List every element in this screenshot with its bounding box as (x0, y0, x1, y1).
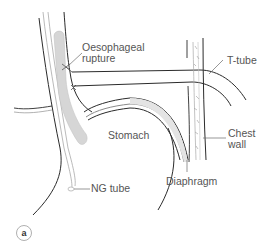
left-drain-tube (14, 106, 52, 113)
label-stomach: Stomach (108, 130, 149, 141)
chest-wall (187, 38, 206, 162)
ng-tube-tip (68, 187, 74, 191)
label-t-tube: T-tube (227, 55, 257, 66)
t-tube (72, 70, 246, 106)
label-ng-tube: NG tube (91, 183, 130, 194)
label-wall: wall (228, 139, 255, 150)
label-oesophageal-rupture: Oesophageal rupture (82, 42, 144, 64)
oesophageal-rupture-diagram (0, 0, 275, 246)
panel-label-badge: a (16, 225, 32, 241)
leader-lines (68, 53, 226, 189)
label-chest-wall: Chest wall (228, 128, 255, 150)
label-diaphragm: Diaphragm (166, 176, 217, 187)
label-rupture: rupture (82, 53, 144, 64)
